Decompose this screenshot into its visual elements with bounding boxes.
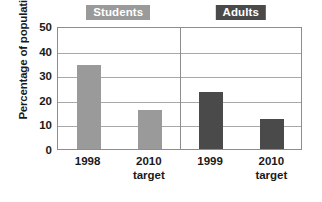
y-axis-tick-label: 50	[24, 21, 52, 33]
y-axis-tick-label: 30	[24, 70, 52, 82]
x-axis-tick-label: 2010target	[236, 154, 306, 182]
group-badge-students: Students	[86, 5, 150, 20]
x-tick-label-line1: 2010	[259, 155, 285, 167]
bar	[138, 110, 162, 149]
y-axis-tick-label: 10	[24, 119, 52, 131]
bar-chart-figure: Percentage of population 01020304050 Stu…	[0, 0, 322, 202]
y-axis-tick-label: 40	[24, 46, 52, 58]
x-tick-label-line1: 2010	[136, 155, 162, 167]
x-axis-tick-label: 1999	[175, 154, 245, 168]
bar	[77, 65, 101, 149]
y-axis-tick-labels: 01020304050	[24, 20, 52, 160]
x-tick-label-line1: 1999	[197, 155, 223, 167]
group-divider	[180, 28, 182, 149]
x-axis-tick-label: 1998	[53, 154, 123, 168]
x-tick-label-line2: target	[236, 168, 306, 182]
bar	[260, 119, 284, 149]
y-axis-tick-label: 0	[24, 144, 52, 156]
x-tick-label-line1: 1998	[75, 155, 101, 167]
y-axis-tick-label: 20	[24, 95, 52, 107]
x-tick-label-line2: target	[114, 168, 184, 182]
bar	[199, 92, 223, 149]
x-axis-tick-label: 2010target	[114, 154, 184, 182]
group-badge-adults: Adults	[216, 5, 266, 20]
plot-area	[57, 27, 302, 150]
